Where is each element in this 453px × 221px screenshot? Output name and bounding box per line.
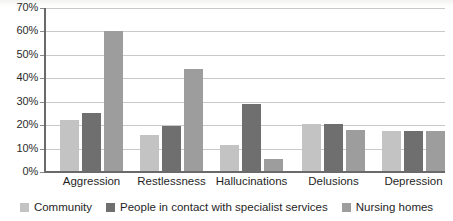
y-axis-label: 70% bbox=[0, 1, 38, 13]
y-axis-label: 40% bbox=[0, 71, 38, 83]
legend-swatch-icon bbox=[106, 203, 115, 212]
legend-swatch-icon bbox=[20, 203, 29, 212]
chart-legend: CommunityPeople in contact with speciali… bbox=[0, 198, 453, 216]
bar bbox=[302, 124, 321, 172]
bar-group bbox=[382, 8, 445, 172]
plot-area bbox=[44, 8, 445, 172]
grouped-bar-chart: 0%10%20%30%40%50%60%70% AggressionRestle… bbox=[0, 0, 453, 221]
bar-group bbox=[302, 8, 365, 172]
legend-swatch-icon bbox=[342, 203, 351, 212]
x-axis-line bbox=[44, 171, 445, 173]
bar bbox=[346, 130, 365, 172]
y-axis-label: 20% bbox=[0, 118, 38, 130]
bar bbox=[162, 126, 181, 172]
legend-label: Nursing homes bbox=[356, 201, 433, 213]
bar bbox=[140, 135, 159, 172]
x-axis-label: Depression bbox=[360, 175, 453, 187]
bar bbox=[404, 131, 423, 172]
legend-label: Community bbox=[34, 201, 92, 213]
bar bbox=[242, 104, 261, 172]
y-axis-label: 10% bbox=[0, 142, 38, 154]
bar bbox=[184, 69, 203, 172]
legend-label: People in contact with specialist servic… bbox=[120, 201, 328, 213]
bar bbox=[82, 113, 101, 172]
legend-item[interactable]: People in contact with specialist servic… bbox=[106, 201, 328, 213]
legend-item[interactable]: Community bbox=[20, 201, 92, 213]
y-axis-label: 50% bbox=[0, 48, 38, 60]
y-axis-label: 0% bbox=[0, 165, 38, 177]
bar bbox=[382, 131, 401, 172]
bar bbox=[426, 131, 445, 172]
y-axis-label: 30% bbox=[0, 95, 38, 107]
bar bbox=[60, 120, 79, 172]
bar-group bbox=[60, 8, 123, 172]
bar bbox=[104, 31, 123, 172]
y-axis-tick-labels: 0%10%20%30%40%50%60%70% bbox=[0, 8, 40, 172]
bar bbox=[324, 124, 343, 172]
y-axis-line bbox=[44, 8, 46, 173]
bar-group bbox=[220, 8, 283, 172]
bar-group bbox=[140, 8, 203, 172]
bar bbox=[220, 145, 239, 172]
y-axis-label: 60% bbox=[0, 24, 38, 36]
legend-item[interactable]: Nursing homes bbox=[342, 201, 433, 213]
